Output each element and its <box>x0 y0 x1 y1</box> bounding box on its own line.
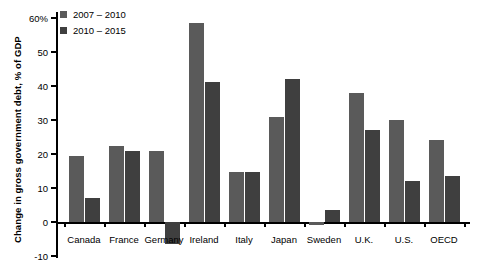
x-axis-tick-mark <box>224 222 226 227</box>
bar <box>445 176 460 222</box>
y-axis-title-text: Change in gross government debt, % of GD… <box>12 36 23 243</box>
bar <box>405 181 420 222</box>
x-axis-tick-mark <box>184 222 186 227</box>
legend-item-label: 2007 – 2010 <box>73 9 126 20</box>
y-axis-tick-mark <box>51 119 56 121</box>
x-axis-tick-mark <box>264 222 266 227</box>
y-axis-title: Change in gross government debt, % of GD… <box>0 0 16 250</box>
bar <box>269 117 284 222</box>
x-axis-label: Ireland <box>189 234 218 245</box>
x-axis-label: Italy <box>235 234 252 245</box>
y-axis-tick-label: 40 <box>37 81 48 92</box>
y-axis-tick-mark <box>51 85 56 87</box>
legend: 2007 – 20102010 – 2015 <box>60 8 126 40</box>
bar <box>285 79 300 222</box>
bar <box>325 210 340 222</box>
x-axis-label: Japan <box>271 234 297 245</box>
y-axis-tick-label: 60% <box>29 13 48 24</box>
y-axis-tick-label: -10 <box>34 251 48 262</box>
y-axis-tick-label: 20 <box>37 149 48 160</box>
legend-item-label: 2010 – 2015 <box>73 25 126 36</box>
legend-swatch-icon <box>60 11 67 18</box>
y-axis-tick-label: 10 <box>37 183 48 194</box>
y-axis-tick-mark <box>51 255 56 257</box>
y-axis-tick-label: 0 <box>43 217 48 228</box>
bar <box>149 151 164 222</box>
bar <box>125 151 140 222</box>
x-axis-label: France <box>109 234 139 245</box>
bar <box>205 82 220 222</box>
bar <box>429 140 444 222</box>
bar-chart: Change in gross government debt, % of GD… <box>0 0 478 268</box>
bar <box>365 130 380 222</box>
bar <box>189 23 204 222</box>
bar <box>109 146 124 223</box>
x-axis-tick-mark <box>104 222 106 227</box>
y-axis-tick-label: 50 <box>37 47 48 58</box>
x-axis-label: Canada <box>67 234 100 245</box>
x-axis-label: Sweden <box>307 234 341 245</box>
y-axis-tick-mark <box>51 51 56 53</box>
y-axis-tick-label: 30 <box>37 115 48 126</box>
legend-swatch-icon <box>60 27 67 34</box>
bar <box>349 93 364 222</box>
y-axis-tick-mark <box>51 153 56 155</box>
x-axis-label: Germany <box>144 234 183 245</box>
bar <box>245 172 260 222</box>
x-axis-tick-mark <box>384 222 386 227</box>
y-axis-tick-mark <box>51 17 56 19</box>
legend-item: 2010 – 2015 <box>60 24 126 37</box>
x-axis-label: U.S. <box>395 234 413 245</box>
bar <box>229 172 244 222</box>
legend-item: 2007 – 2010 <box>60 8 126 21</box>
x-axis-tick-mark <box>144 222 146 227</box>
x-axis-label: OECD <box>430 234 457 245</box>
bar <box>389 120 404 222</box>
y-axis-tick-mark <box>51 221 56 223</box>
plot-area: -100102030405060% CanadaFranceGermanyIre… <box>56 6 471 258</box>
bar <box>309 222 324 225</box>
x-axis-tick-mark <box>344 222 346 227</box>
x-axis-tick-mark <box>464 222 466 227</box>
bar <box>85 198 100 222</box>
y-axis-tick-mark <box>51 187 56 189</box>
x-axis-tick-mark <box>304 222 306 227</box>
x-axis-tick-mark <box>424 222 426 227</box>
x-axis-tick-mark <box>64 222 66 227</box>
x-axis-label: U.K. <box>355 234 373 245</box>
bar <box>69 156 84 222</box>
x-axis-zero-line <box>56 222 470 224</box>
